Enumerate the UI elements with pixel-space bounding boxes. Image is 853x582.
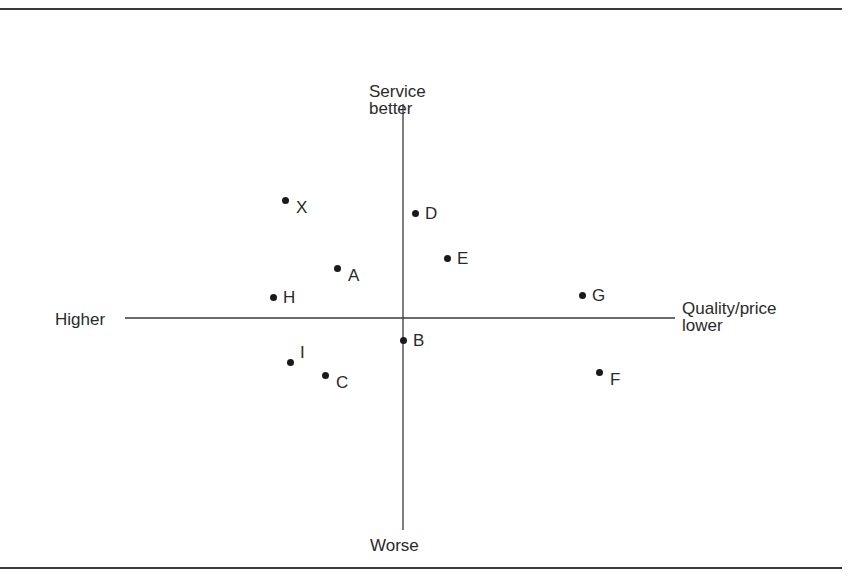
point-label: D [425, 205, 437, 222]
axis-label-bottom-line-1: Worse [370, 537, 419, 554]
point-label: B [413, 332, 424, 349]
axis-label-bottom: Worse [370, 537, 419, 554]
point-marker-icon [444, 255, 451, 262]
point-label: I [300, 344, 305, 361]
axis-label-top: Service better [369, 83, 426, 117]
point-marker-icon [400, 337, 407, 344]
positioning-map-chart: Service better Worse Higher Quality/pric… [0, 0, 853, 582]
axis-label-top-line-2: better [369, 100, 426, 117]
point-marker-icon [322, 372, 329, 379]
point-label: F [610, 371, 620, 388]
point-label: G [592, 287, 605, 304]
point-marker-icon [596, 369, 603, 376]
point-label: X [296, 199, 307, 216]
point-marker-icon [287, 359, 294, 366]
point-label: A [348, 267, 359, 284]
axis-label-right: Quality/price lower [682, 300, 776, 334]
chart-axes [0, 0, 853, 582]
axis-label-left: Higher [55, 311, 105, 328]
point-label: E [457, 250, 468, 267]
axis-label-top-line-1: Service [369, 83, 426, 100]
axis-label-right-line-2: lower [682, 317, 776, 334]
point-marker-icon [412, 210, 419, 217]
axis-label-left-line-1: Higher [55, 311, 105, 328]
point-marker-icon [282, 197, 289, 204]
point-marker-icon [334, 265, 341, 272]
point-label: C [336, 374, 348, 391]
point-marker-icon [270, 294, 277, 301]
axis-label-right-line-1: Quality/price [682, 300, 776, 317]
point-marker-icon [579, 292, 586, 299]
point-label: H [283, 289, 295, 306]
